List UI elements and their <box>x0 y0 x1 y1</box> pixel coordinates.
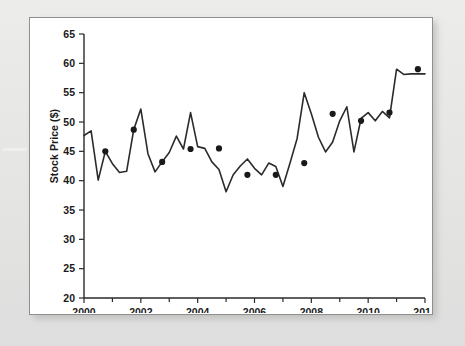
y-tick-label: 55 <box>63 86 75 98</box>
y-tick-label: 50 <box>63 116 75 128</box>
x-tick-label: 2004 <box>186 306 210 314</box>
y-tick-label: 45 <box>63 145 75 157</box>
data-point-marker <box>102 148 108 154</box>
x-tick-label: 2000 <box>72 306 96 314</box>
y-tick-label: 20 <box>63 292 75 304</box>
x-tick-label: 2008 <box>300 306 324 314</box>
data-point-marker <box>330 111 336 117</box>
y-axis: 20253035404550556065 <box>63 28 84 304</box>
data-point-marker <box>216 145 222 151</box>
x-axis: 2000200220042006200820102012 <box>72 298 431 313</box>
data-point-marker <box>386 110 392 116</box>
x-tick-label: 2010 <box>356 306 380 314</box>
y-tick-label: 40 <box>63 174 75 186</box>
y-tick-label: 25 <box>63 262 75 274</box>
x-tick-label: 2006 <box>243 306 267 314</box>
y-tick-label: 60 <box>63 57 75 69</box>
y-tick-label: 30 <box>63 233 75 245</box>
y-tick-label: 35 <box>63 204 75 216</box>
x-tick-label: 2012 <box>413 306 431 314</box>
data-point-marker <box>301 160 307 166</box>
data-point-marker <box>187 146 193 152</box>
line-chart-plot: 20253035404550556065 2000200220042006200… <box>30 18 431 313</box>
data-point-marker <box>273 172 279 178</box>
data-point-marker <box>159 159 165 165</box>
x-tick-label: 2002 <box>129 306 153 314</box>
chart-panel: Stock Price ($) 20253035404550556065 200… <box>29 17 433 315</box>
paper-texture-mark <box>3 148 27 151</box>
data-point-marker <box>244 172 250 178</box>
data-point-marker <box>131 127 137 133</box>
data-point-marker <box>415 66 421 72</box>
y-tick-label: 65 <box>63 28 75 40</box>
data-point-marker <box>358 118 364 124</box>
